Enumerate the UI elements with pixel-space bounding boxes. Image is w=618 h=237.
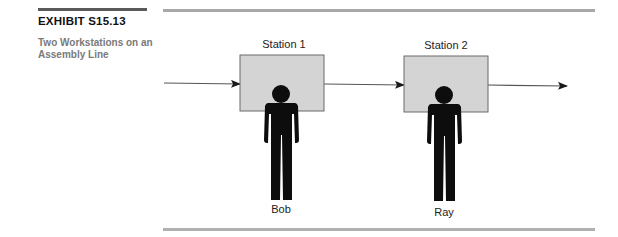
assembly-line-diagram: Station 1 Station 2 Bob Ray	[0, 0, 618, 237]
figure-bottom-rule	[163, 228, 595, 231]
worker-ray-label: Ray	[434, 206, 454, 218]
station-2-label: Station 2	[424, 39, 467, 51]
flow-arrows	[164, 83, 567, 86]
input-arrow-icon	[164, 83, 240, 84]
transfer-arrow-icon	[324, 84, 404, 85]
worker-bob-label: Bob	[271, 203, 291, 215]
figure-top-rule	[163, 9, 595, 12]
output-arrow-icon	[488, 85, 567, 86]
station-1-label: Station 1	[262, 38, 305, 50]
